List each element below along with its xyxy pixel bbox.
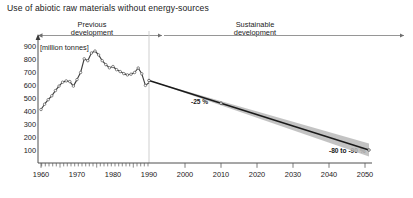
historical-series-line [41,51,149,110]
y-axis-arrow-icon [36,34,41,40]
chart-container: Use of abiotic raw materials without ene… [0,0,413,198]
target-path-line [149,81,369,151]
chart-graphics [0,0,413,198]
target-path-start-marker [148,79,151,82]
historical-series-markers [40,50,147,111]
target-corridor-band [149,81,369,157]
x-axis-minor-ticks [42,163,148,168]
target-path-end-marker [368,149,371,152]
target-path-mid-marker [220,102,223,105]
